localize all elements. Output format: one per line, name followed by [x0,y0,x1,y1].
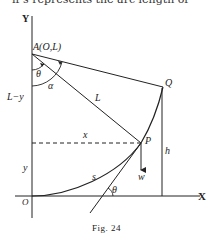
x-label: x [82,129,88,140]
L-minus-y-label: L−y [6,91,24,102]
s-label: s [92,171,96,182]
point-Q-label: Q [165,77,173,88]
diagram: Y X O A(O,L) Q P θ α L−y L x y h w s θ F… [0,0,213,240]
point-A-label: A(O,L) [32,41,62,53]
alpha-label: α [48,80,54,91]
theta-top-label: θ [36,68,41,79]
point-P-label: P [144,135,151,146]
y-label: y [22,162,28,173]
w-label: w [138,171,145,182]
h-label: h [165,145,170,156]
L-label: L [94,92,101,103]
y-axis-label: Y [22,13,30,24]
tangent-line [90,143,141,213]
origin-label: O [22,197,29,207]
theta-bottom-label: θ [112,184,117,195]
x-axis-label: X [198,190,206,202]
figure-caption: Fig. 24 [92,223,121,233]
